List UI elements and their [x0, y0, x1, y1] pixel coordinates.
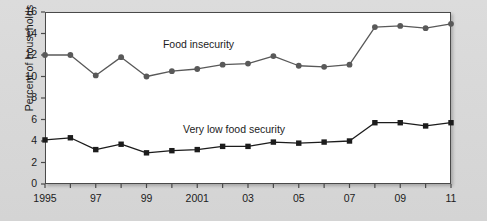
data-point-square [398, 120, 403, 125]
data-point-circle [448, 21, 454, 27]
data-point-square [195, 147, 200, 152]
data-point-circle [220, 62, 226, 68]
data-point-circle [270, 53, 276, 59]
data-point-square [118, 142, 123, 147]
data-point-square [372, 120, 377, 125]
data-point-circle [194, 66, 200, 72]
data-point-square [423, 123, 428, 128]
chart-figure: Percent of households 0246810121416 1995… [0, 0, 487, 221]
data-point-circle [296, 63, 302, 69]
data-point-square [347, 138, 352, 143]
data-point-square [448, 120, 453, 125]
data-point-circle [397, 23, 403, 29]
chart-svg [0, 0, 487, 221]
series-layer [42, 21, 454, 156]
data-point-circle [144, 74, 150, 80]
data-point-square [42, 137, 47, 142]
data-point-square [296, 140, 301, 145]
data-point-circle [347, 62, 353, 68]
data-point-circle [118, 54, 124, 60]
axis-ticks [41, 12, 451, 188]
data-point-square [245, 144, 250, 149]
data-point-square [220, 144, 225, 149]
data-point-circle [42, 52, 48, 58]
data-point-square [271, 139, 276, 144]
data-point-square [68, 135, 73, 140]
data-point-circle [372, 24, 378, 30]
data-point-square [169, 148, 174, 153]
data-point-square [93, 147, 98, 152]
data-point-circle [245, 61, 251, 67]
data-point-square [321, 139, 326, 144]
series-line-0 [45, 24, 451, 77]
data-point-square [144, 150, 149, 155]
data-point-circle [423, 25, 429, 31]
data-point-circle [169, 68, 175, 74]
data-point-circle [93, 73, 99, 79]
data-point-circle [67, 52, 73, 58]
data-point-circle [321, 64, 327, 70]
